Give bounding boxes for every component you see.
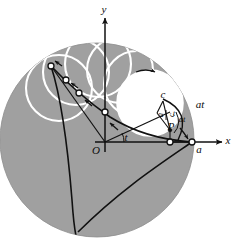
point-a-label: a	[196, 143, 202, 155]
x-axis-label: x	[225, 134, 231, 146]
y-axis-label: y	[101, 3, 107, 15]
radius-fraction-numerator: a	[155, 113, 165, 117]
origin-label: O	[92, 144, 100, 156]
point-P-label: P	[167, 120, 175, 132]
contact-point-marker	[167, 139, 173, 145]
point-c-label: c	[161, 88, 166, 100]
curve-marker-point	[48, 63, 54, 69]
curve-marker-point	[76, 90, 82, 96]
figure-root: y x O t a c P a c t at at	[0, 0, 237, 243]
point-a-marker	[189, 139, 195, 145]
hypocycloid-figure: y x O t a c P a c t at at	[0, 0, 237, 243]
curve-marker-point	[102, 109, 108, 115]
outer-at-label: at	[196, 98, 206, 110]
inner-at-label: at	[179, 114, 186, 124]
curve-marker-point	[63, 77, 69, 83]
